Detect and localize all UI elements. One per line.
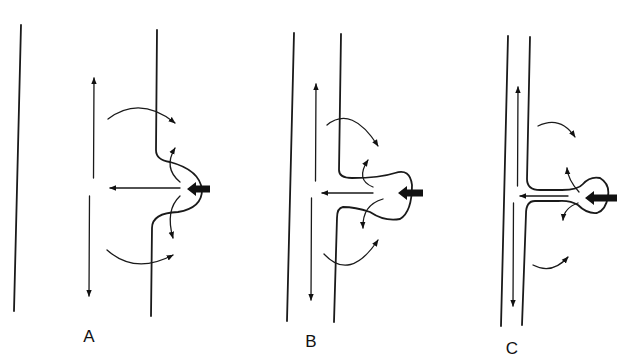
downward-flow-arrow <box>311 198 312 300</box>
panel-label-c: C <box>506 339 518 358</box>
recirculation-arrow <box>108 108 175 123</box>
panel-a: A <box>14 25 210 346</box>
panel-c: C <box>501 36 617 358</box>
channel-wall <box>14 25 21 311</box>
injection-arrow-icon <box>585 191 617 205</box>
recirculation-arrow <box>170 196 180 238</box>
upward-flow-arrow <box>94 78 95 178</box>
downward-flow-arrow <box>513 203 514 306</box>
recirculation-arrow <box>533 257 568 269</box>
downward-flow-arrow <box>89 196 90 296</box>
panel-label-a: A <box>83 327 95 346</box>
recirculation-arrow <box>363 160 373 187</box>
recirculation-arrow <box>327 118 378 146</box>
injection-arrow-icon <box>187 182 210 196</box>
recirculation-arrow <box>563 203 578 220</box>
channel-wall <box>522 37 608 325</box>
panel-label-b: B <box>305 332 316 351</box>
flow-diagram: ABC <box>0 0 625 360</box>
recirculation-arrow <box>107 250 173 264</box>
upward-flow-arrow <box>518 87 519 186</box>
channel-wall <box>501 36 508 326</box>
channel-wall <box>287 33 294 321</box>
recirculation-arrow <box>538 122 575 137</box>
channel-wall <box>151 30 202 316</box>
recirculation-arrow <box>324 240 378 265</box>
channel-wall <box>334 34 412 322</box>
upward-flow-arrow <box>316 84 317 181</box>
panel-b: B <box>287 33 423 351</box>
